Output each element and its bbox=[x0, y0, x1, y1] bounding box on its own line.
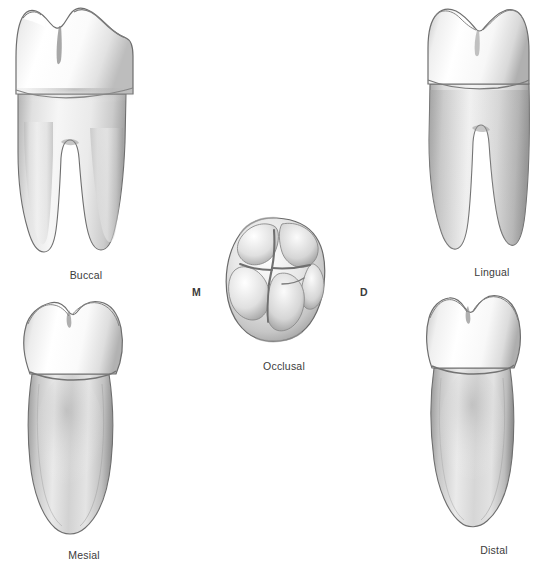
distal-tooth-illustration bbox=[416, 286, 538, 536]
tooth-view-mesial bbox=[12, 296, 138, 541]
view-label-distal: Distal bbox=[444, 544, 544, 556]
occlusal-mesial-marker: M bbox=[192, 286, 201, 298]
view-label-mesial: Mesial bbox=[34, 549, 134, 561]
view-label-buccal: Buccal bbox=[36, 269, 136, 281]
buccal-cervical-shading bbox=[16, 88, 133, 104]
buccal-tooth-illustration bbox=[2, 2, 150, 264]
tooth-view-distal bbox=[416, 286, 538, 536]
mesial-tooth-illustration bbox=[12, 296, 138, 541]
tooth-view-lingual bbox=[408, 0, 543, 265]
occlusal-distal-marker: D bbox=[360, 286, 368, 298]
tooth-figure-canvas: Buccal bbox=[0, 0, 547, 575]
occlusal-tooth-illustration bbox=[222, 212, 330, 347]
lingual-tooth-illustration bbox=[408, 0, 543, 265]
lingual-root-shading bbox=[429, 90, 529, 249]
mesial-crown bbox=[24, 302, 122, 374]
distal-root-core-shading bbox=[439, 370, 505, 494]
tooth-view-occlusal bbox=[222, 212, 330, 347]
distal-occlusal-notch bbox=[466, 306, 471, 324]
tooth-view-buccal bbox=[2, 2, 150, 264]
distal-crown bbox=[427, 296, 521, 368]
view-label-lingual: Lingual bbox=[442, 266, 542, 278]
mesial-root-core-shading bbox=[36, 374, 104, 498]
view-label-occlusal: Occlusal bbox=[234, 360, 334, 372]
